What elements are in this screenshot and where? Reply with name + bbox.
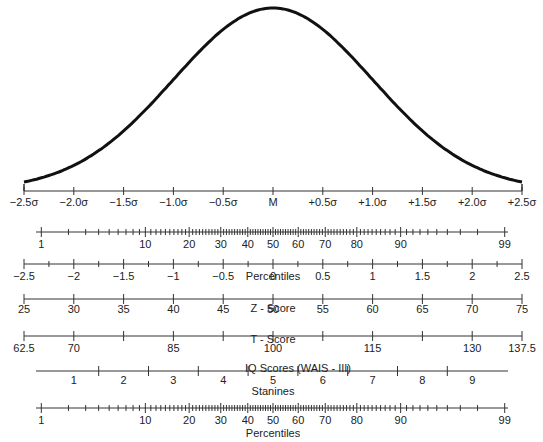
zscore-label: 0.5 — [315, 271, 330, 282]
tscore-label: 70 — [466, 304, 478, 315]
percentiles-top-title: Percentiles — [246, 271, 300, 282]
iq-label: 62.5 — [13, 343, 34, 354]
zscore-label: −2 — [68, 271, 81, 282]
stanine-label: 6 — [320, 375, 326, 386]
percentile-label: 99 — [499, 239, 511, 250]
stanine-label: 7 — [370, 375, 376, 386]
tscore-label: 60 — [366, 304, 378, 315]
percentile-label: 40 — [242, 239, 254, 250]
percentile-label: 70 — [319, 239, 331, 250]
stanine-label: 8 — [419, 375, 425, 386]
zscore-label: −0.5 — [212, 271, 234, 282]
tscore-title: T - Score — [250, 334, 295, 345]
zscore-label: −2.5 — [13, 271, 35, 282]
percentile-label: 90 — [395, 415, 407, 426]
percentile-label: 1 — [38, 415, 44, 426]
percentile-label: 20 — [183, 239, 195, 250]
tscore-label: 35 — [117, 304, 129, 315]
zscore-label: 2 — [469, 271, 475, 282]
percentile-label: 50 — [267, 239, 279, 250]
zscore-label: −1 — [167, 271, 180, 282]
sigma-tick-label: −1.5σ — [109, 197, 138, 208]
iq-label: 70 — [68, 343, 80, 354]
stanine-label: 1 — [71, 375, 77, 386]
zscore-label: 2.5 — [514, 271, 529, 282]
percentile-label: 10 — [139, 239, 151, 250]
percentile-label: 10 — [139, 415, 151, 426]
percentile-label: 20 — [183, 415, 195, 426]
stanine-label: 4 — [220, 375, 226, 386]
iq-title: IQ Scores (WAIS - III) — [245, 363, 351, 374]
sigma-tick-label: −0.5σ — [209, 197, 238, 208]
iq-label: 85 — [167, 343, 179, 354]
tscore-label: 55 — [317, 304, 329, 315]
tscore-label: 30 — [68, 304, 80, 315]
zscore-label: −1.5 — [113, 271, 135, 282]
sigma-tick-label: −2.0σ — [60, 197, 89, 208]
sigma-tick-label: +1.0σ — [358, 197, 387, 208]
percentile-label: 30 — [215, 415, 227, 426]
percentile-label: 30 — [215, 239, 227, 250]
percentile-label: 70 — [319, 415, 331, 426]
sigma-tick-label: +0.5σ — [309, 197, 338, 208]
iq-label: 137.5 — [508, 343, 536, 354]
stanine-label: 3 — [170, 375, 176, 386]
tscore-label: 65 — [416, 304, 428, 315]
percentile-label: 50 — [267, 415, 279, 426]
percentile-label: 60 — [292, 239, 304, 250]
sigma-tick-label: M — [268, 197, 277, 208]
iq-label: 130 — [463, 343, 481, 354]
zscore-label: 1.5 — [415, 271, 430, 282]
tscore-label: 45 — [217, 304, 229, 315]
iq-label: 115 — [364, 343, 382, 354]
sigma-tick-label: +1.5σ — [408, 197, 437, 208]
percentile-label: 80 — [351, 239, 363, 250]
zscore-label: 1 — [370, 271, 376, 282]
tscore-label: 40 — [167, 304, 179, 315]
zscore-title: Z - Score — [250, 303, 295, 314]
sigma-tick-label: −2.5σ — [10, 197, 39, 208]
percentile-label: 1 — [38, 239, 44, 250]
stanine-label: 9 — [469, 375, 475, 386]
sigma-tick-label: +2.5σ — [508, 197, 537, 208]
tscore-label: 25 — [18, 304, 30, 315]
percentile-label: 99 — [499, 415, 511, 426]
sigma-tick-label: +2.0σ — [458, 197, 487, 208]
tscore-label: 75 — [516, 304, 528, 315]
sigma-tick-label: −1.0σ — [159, 197, 188, 208]
percentiles-bottom-title: Percentiles — [246, 428, 300, 439]
percentile-label: 80 — [351, 415, 363, 426]
stanine-label: 2 — [121, 375, 127, 386]
stanines-title: Stanines — [252, 386, 295, 397]
percentile-label: 90 — [395, 239, 407, 250]
percentile-label: 40 — [242, 415, 254, 426]
percentile-label: 60 — [292, 415, 304, 426]
